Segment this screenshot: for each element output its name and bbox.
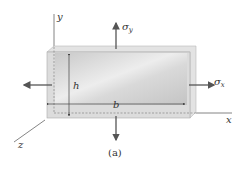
sigma-x-label: σx xyxy=(214,76,225,89)
diagram-canvas: y x z h b σy σx (a) xyxy=(0,0,242,170)
height-label: h xyxy=(73,80,79,91)
z-axis-label: z xyxy=(17,139,24,150)
figure-caption: (a) xyxy=(108,147,122,158)
width-label: b xyxy=(113,99,119,110)
stress-element-figure: y x z h b σy σx (a) xyxy=(0,0,242,170)
plate-inner-face xyxy=(55,53,187,105)
x-axis-label: x xyxy=(226,114,232,125)
sigma-y-label: σy xyxy=(122,21,134,34)
y-axis-label: y xyxy=(56,11,63,22)
